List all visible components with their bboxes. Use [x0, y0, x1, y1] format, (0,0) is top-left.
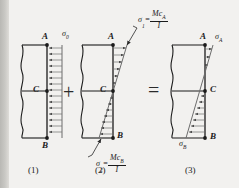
panel3-point-a-dot [203, 43, 207, 47]
panel-1-group [21, 43, 62, 140]
equals-operator: = [148, 80, 159, 100]
panel3-point-b-dot [203, 136, 207, 140]
panel3-label-a: A [200, 32, 206, 41]
panel2-label-c: C [100, 85, 106, 94]
panel3-label-c: C [210, 85, 216, 94]
panel2-sigma2-fraction: McBI [108, 154, 126, 174]
panel2-top-leader-tail [133, 26, 137, 28]
panel1-label-a: A [42, 32, 48, 41]
caption-panel-3: (3) [185, 166, 196, 175]
panel3-point-c-dot [203, 89, 207, 93]
panel2-bottom-leader [92, 139, 101, 155]
panel-2-group [81, 26, 137, 157]
panel1-label-b: B [42, 141, 48, 150]
panel2-point-b-dot [111, 136, 115, 140]
panel2-label-a: A [108, 32, 114, 41]
figure-root: A C B σ0 A C B σ1=McAI σ2=McBI A C B σA … [0, 0, 239, 188]
caption-panel-2: (2) [95, 166, 106, 175]
caption-panel-1: (1) [28, 166, 39, 175]
panel2-point-a-dot [111, 43, 115, 47]
panel3-sigma-a-label: σA [215, 33, 222, 43]
panel2-top-leader [127, 28, 137, 45]
plus-operator: + [63, 82, 74, 102]
panel2-sigma1-fraction: McAI [150, 10, 168, 30]
panel2-bottom-leader-tail [88, 155, 92, 157]
panel3-label-b: B [210, 132, 216, 141]
panel1-point-c-dot [45, 89, 49, 93]
panel2-label-b: B [117, 131, 123, 140]
panel3-sigma-b-label: σB [179, 140, 186, 150]
panel1-stress-arrows [49, 48, 62, 132]
panel2-point-c-dot [111, 89, 115, 93]
panel1-label-c: C [33, 85, 39, 94]
panel1-point-a-dot [45, 43, 49, 47]
panel1-sigma0-label: σ0 [62, 30, 69, 40]
panel-3-group [171, 43, 213, 140]
panel2-sigma1-equation: σ1=McAI [138, 10, 168, 30]
